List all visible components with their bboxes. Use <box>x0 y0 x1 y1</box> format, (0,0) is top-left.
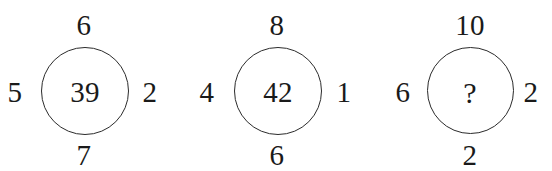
group-3-bottom-number: 2 <box>463 141 478 170</box>
puzzle-canvas: 6 5 39 2 7 8 4 42 1 6 10 6 ? 2 2 <box>0 0 552 171</box>
group-1-left-number: 5 <box>8 78 23 107</box>
group-1-right-number: 2 <box>143 78 158 107</box>
group-1-center-number: 39 <box>70 78 100 107</box>
group-2-top-number: 8 <box>270 11 285 40</box>
group-3-right-number: 2 <box>524 78 539 107</box>
group-3-center-unknown: ? <box>463 78 477 108</box>
group-1-top-number: 6 <box>77 11 92 40</box>
group-3-left-number: 6 <box>396 78 411 107</box>
group-2-left-number: 4 <box>200 78 215 107</box>
group-2-center-number: 42 <box>263 78 293 107</box>
group-2-right-number: 1 <box>337 78 352 107</box>
group-2-bottom-number: 6 <box>270 141 285 170</box>
group-3-top-number: 10 <box>455 11 485 40</box>
group-1-bottom-number: 7 <box>77 141 92 170</box>
